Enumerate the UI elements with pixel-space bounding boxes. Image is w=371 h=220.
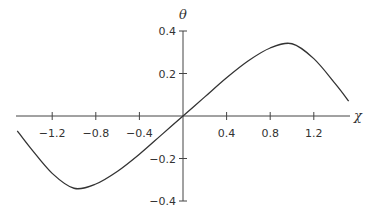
line-chart: −1.2−0.8−0.40.40.81.2 0.40.2−0.2−0.4 χ θ [0, 0, 371, 220]
y-tick-label: 0.4 [159, 25, 177, 38]
y-tick-label: −0.2 [149, 153, 176, 166]
y-axis-label: θ [179, 7, 187, 22]
x-tick-label: −0.8 [82, 127, 109, 140]
x-tick-label: −0.4 [126, 127, 153, 140]
y-tick-label: 0.2 [159, 68, 177, 81]
x-axis-label: χ [353, 108, 363, 123]
y-tick-label: −0.4 [149, 195, 176, 208]
x-tick-label: 1.2 [305, 127, 323, 140]
x-tick-label: −1.2 [39, 127, 66, 140]
x-tick-label: 0.4 [218, 127, 236, 140]
x-tick-label: 0.8 [261, 127, 279, 140]
